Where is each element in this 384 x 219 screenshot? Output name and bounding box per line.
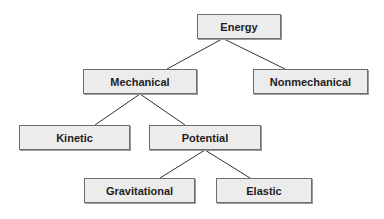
node-label: Mechanical <box>110 76 169 88</box>
node-label: Potential <box>182 132 228 144</box>
node-label: Gravitational <box>106 185 173 197</box>
node-label: Kinetic <box>56 132 93 144</box>
edge-mechanical-kinetic <box>95 94 140 125</box>
node-label: Nonmechanical <box>270 76 351 88</box>
edge-mechanical-potential <box>140 94 185 125</box>
edge-potential-elastic <box>205 150 250 178</box>
node-kinetic: Kinetic <box>19 125 130 150</box>
edge-energy-nonmechanical <box>224 39 285 69</box>
node-elastic: Elastic <box>216 178 312 203</box>
node-label: Energy <box>220 21 257 33</box>
edge-energy-mechanical <box>167 39 222 69</box>
node-label: Elastic <box>246 185 281 197</box>
node-energy: Energy <box>197 14 281 39</box>
node-potential: Potential <box>149 125 261 150</box>
node-gravitational: Gravitational <box>84 178 195 203</box>
node-mechanical: Mechanical <box>83 69 197 94</box>
edge-potential-gravitational <box>160 150 205 178</box>
node-nonmechanical: Nonmechanical <box>253 69 368 94</box>
